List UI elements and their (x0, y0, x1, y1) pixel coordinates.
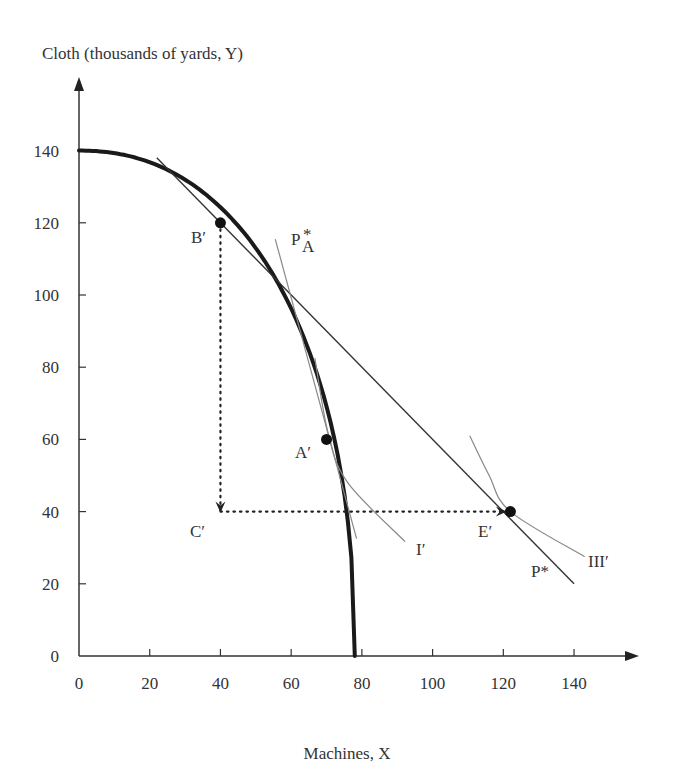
y-tick-label: 100 (34, 286, 60, 305)
label-pa-star-sub: A (302, 237, 315, 256)
x-tick-label: 40 (212, 674, 229, 693)
y-tick-label: 120 (34, 214, 60, 233)
label-iii-prime: III′ (588, 552, 609, 571)
label-b-prime: B′ (191, 228, 206, 247)
x-tick-label: 0 (75, 674, 84, 693)
x-tick-label: 60 (283, 674, 300, 693)
pa-star-price-line (275, 239, 356, 539)
point-e-prime (505, 506, 516, 517)
y-axis-title: Cloth (thousands of yards, Y) (42, 44, 243, 63)
y-axis-arrowhead (74, 77, 84, 91)
x-tick-label: 120 (491, 674, 517, 693)
label-e-prime: E′ (478, 522, 492, 541)
x-tick-label: 100 (420, 674, 446, 693)
point-a-prime (321, 434, 332, 445)
trade-gains-diagram: Cloth (thousands of yards, Y) Machines, … (0, 0, 675, 775)
x-axis-arrowhead (625, 651, 639, 661)
x-tick-label: 80 (353, 674, 370, 693)
label-pa-star: P (291, 230, 300, 249)
y-tick-label: 40 (42, 503, 59, 522)
label-a-prime: A′ (295, 443, 311, 462)
label-p-star: P* (531, 562, 549, 581)
point-b-prime (215, 217, 226, 228)
x-tick-label: 140 (561, 674, 587, 693)
x-tick-label: 20 (141, 674, 158, 693)
label-c-prime: C′ (190, 522, 205, 541)
indifference-curve-i (315, 358, 405, 541)
x-axis-title: Machines, X (304, 744, 391, 763)
y-tick-label: 60 (42, 430, 59, 449)
label-i-prime: I′ (416, 540, 425, 559)
y-tick-label: 20 (42, 575, 59, 594)
y-tick-label: 0 (51, 647, 60, 666)
y-tick-label: 80 (42, 358, 59, 377)
y-tick-label: 140 (34, 142, 60, 161)
